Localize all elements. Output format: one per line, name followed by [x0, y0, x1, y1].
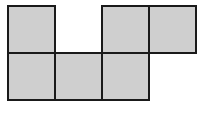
square-r0-c0	[7, 5, 56, 54]
square-r1-c1	[54, 52, 103, 101]
square-r0-c3	[148, 5, 197, 54]
polyomino-diagram	[0, 0, 210, 113]
square-r1-c2	[101, 52, 150, 101]
square-r1-c0	[7, 52, 56, 101]
square-r0-c2	[101, 5, 150, 54]
